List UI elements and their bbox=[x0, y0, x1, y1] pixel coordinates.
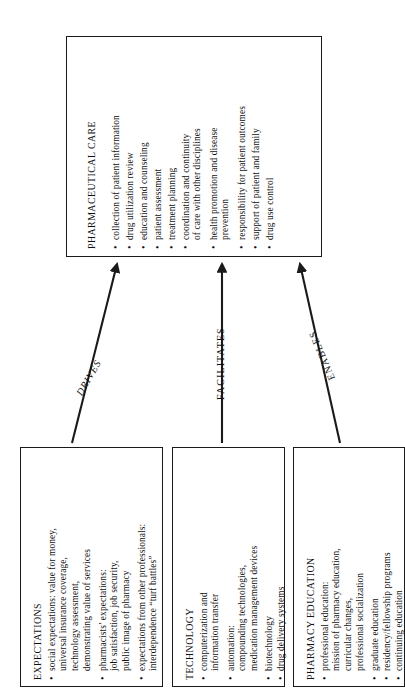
list-item-label: professional education: bbox=[320, 581, 330, 671]
list-item-label: professional socialization bbox=[355, 573, 365, 671]
list-item-label: pharmacists’ expectations: bbox=[98, 569, 108, 671]
list-item-label: treatment planning bbox=[167, 168, 177, 240]
list-item-label: interdependence “turf battles” bbox=[148, 556, 158, 671]
list-item: education and counseling bbox=[139, 142, 149, 249]
list-item-label: social expectations: value for money, bbox=[47, 528, 57, 671]
box-pharmacy-education-title: PHARMACY EDUCATION bbox=[306, 557, 316, 680]
list-item: coordination and continuity bbox=[181, 134, 191, 249]
list-item-label: drug delivery systems bbox=[276, 587, 286, 671]
list-item-label: compounding technologies, bbox=[237, 565, 247, 671]
list-item-label: graduate education bbox=[370, 598, 380, 671]
list-item-continuation: curricular changes, bbox=[344, 598, 353, 680]
list-item-label: mission of pharmacy education, bbox=[331, 548, 341, 671]
list-item-label: of care with other disciplines bbox=[192, 128, 202, 240]
box-pharmaceutical-care-content: PHARMACEUTICAL CARE collection of patien… bbox=[67, 37, 321, 256]
list-item: pharmacists’ expectations: bbox=[98, 569, 108, 680]
list-item: continuing education bbox=[394, 590, 404, 680]
box-technology-content: TECHNOLOGY computerization and informati… bbox=[173, 448, 284, 686]
list-item-continuation: medication management devices bbox=[250, 546, 259, 680]
list-item-continuation: professional socialization bbox=[356, 573, 365, 680]
list-item-label: continuing education bbox=[394, 590, 404, 671]
bullet-icon bbox=[199, 671, 209, 680]
arrow-drives bbox=[72, 264, 117, 443]
box-expectations: EXPECTATIONS social expectations: value … bbox=[20, 447, 163, 687]
bullet-icon bbox=[382, 671, 392, 680]
box-pharmaceutical-care: PHARMACEUTICAL CARE collection of patien… bbox=[66, 36, 322, 257]
list-item: social expectations: value for money, bbox=[47, 528, 57, 680]
list-item: collection of patient information bbox=[111, 115, 121, 249]
bullet-icon bbox=[394, 671, 404, 680]
list-item: drug delivery systems bbox=[276, 587, 286, 680]
list-item: professional education: bbox=[320, 581, 330, 680]
list-item-label: education and counseling bbox=[139, 142, 149, 240]
bullet-icon bbox=[167, 240, 177, 249]
arrow-label-drives: DRIVES bbox=[74, 358, 103, 398]
list-item: automation: bbox=[226, 625, 236, 680]
list-item-continuation: job satisfaction, job security, bbox=[110, 560, 119, 680]
arrow-label-enables: ENABLES bbox=[306, 329, 337, 382]
list-item: drug utilization review bbox=[125, 152, 135, 249]
list-item-label: support of patient and family bbox=[251, 128, 261, 240]
list-item: support of patient and family bbox=[251, 128, 261, 249]
box-pharmaceutical-care-title: PHARMACEUTICAL CARE bbox=[87, 121, 97, 249]
bullet-icon bbox=[226, 671, 236, 680]
list-item: patient assessment bbox=[153, 169, 163, 249]
box-pharmacy-education-content: PHARMACY EDUCATION professional educatio… bbox=[294, 448, 404, 686]
list-item-label: health promotion and disease bbox=[209, 128, 219, 240]
list-item-label: technology assessment, bbox=[70, 581, 80, 671]
list-item-label: prevention bbox=[220, 199, 230, 240]
list-item-label: responsibility for patient outcomes bbox=[237, 106, 247, 240]
list-item-label: biotechnology bbox=[264, 616, 274, 671]
list-item-label: public image of pharmacy bbox=[121, 570, 131, 671]
bullet-icon bbox=[111, 240, 121, 249]
box-pharmacy-education: PHARMACY EDUCATION professional educatio… bbox=[293, 447, 405, 687]
list-item-label: curricular changes, bbox=[343, 598, 353, 671]
list-item-label: universal insurance coverage, bbox=[58, 557, 68, 671]
diagram-canvas: PHARMACEUTICAL CARE collection of patien… bbox=[0, 0, 405, 694]
list-item: health promotion and disease bbox=[209, 128, 219, 249]
list-item-continuation: mission of pharmacy education, bbox=[332, 548, 341, 680]
list-item-continuation: of care with other disciplines bbox=[193, 128, 202, 249]
box-technology: TECHNOLOGY computerization and informati… bbox=[172, 447, 285, 687]
bullet-icon bbox=[276, 671, 286, 680]
list-item-label: job satisfaction, job security, bbox=[109, 560, 119, 671]
list-item-continuation: interdependence “turf battles” bbox=[149, 556, 158, 680]
list-item: graduate education bbox=[370, 598, 380, 680]
box-expectations-title: EXPECTATIONS bbox=[33, 603, 43, 680]
bullet-icon bbox=[181, 240, 191, 249]
bullet-icon bbox=[320, 671, 330, 680]
bullet-icon bbox=[237, 240, 247, 249]
bullet-icon bbox=[98, 671, 108, 680]
list-item-continuation: compounding technologies, bbox=[238, 565, 247, 680]
bullet-icon bbox=[139, 240, 149, 249]
list-item-label: drug utilization review bbox=[125, 152, 135, 240]
list-item: responsibility for patient outcomes bbox=[237, 106, 247, 249]
list-item-continuation: technology assessment, bbox=[71, 581, 80, 680]
list-item: residency/fellowship programs bbox=[382, 552, 392, 680]
list-item-label: coordination and continuity bbox=[181, 134, 191, 240]
bullet-icon bbox=[209, 240, 219, 249]
box-expectations-content: EXPECTATIONS social expectations: value … bbox=[21, 448, 162, 686]
list-item-continuation: universal insurance coverage, bbox=[59, 557, 68, 680]
list-item: computerization and bbox=[199, 592, 209, 680]
list-item-label: medication management devices bbox=[249, 546, 259, 671]
bullet-icon bbox=[153, 240, 163, 249]
list-item: expectations from other professionals: bbox=[137, 524, 147, 680]
list-item-continuation: prevention bbox=[221, 199, 230, 249]
list-item: drug use control bbox=[265, 177, 275, 249]
list-item: treatment planning bbox=[167, 168, 177, 249]
list-item-label: computerization and bbox=[199, 592, 209, 671]
list-item-label: automation: bbox=[226, 625, 236, 671]
list-item-label: expectations from other professionals: bbox=[137, 524, 147, 671]
bullet-icon bbox=[251, 240, 261, 249]
list-item-continuation: public image of pharmacy bbox=[122, 570, 131, 680]
list-item-label: collection of patient information bbox=[111, 115, 121, 240]
bullet-icon bbox=[137, 671, 147, 680]
list-item-label: drug use control bbox=[265, 177, 275, 240]
box-technology-title: TECHNOLOGY bbox=[185, 608, 195, 680]
list-item: biotechnology bbox=[264, 616, 274, 680]
list-item-continuation: demonstrating value of services bbox=[83, 549, 92, 680]
list-item-continuation: information transfer bbox=[211, 594, 220, 680]
list-item-label: patient assessment bbox=[153, 169, 163, 240]
arrow-label-facilitates: FACILITATES bbox=[215, 327, 226, 400]
